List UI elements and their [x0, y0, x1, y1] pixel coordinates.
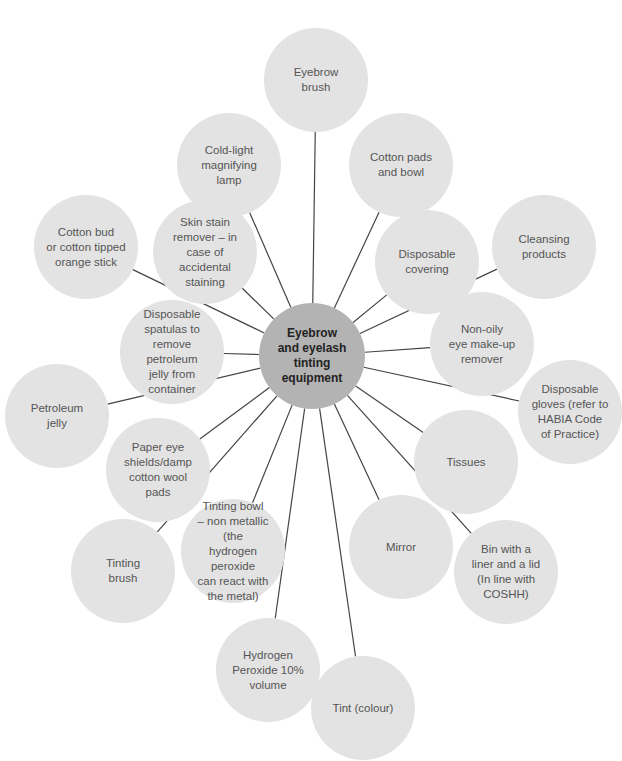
connector-skin-stain-remover: [242, 288, 274, 319]
connector-disposable-spatulas: [224, 353, 259, 354]
node-label: Tissues: [446, 455, 485, 470]
node-label: Cotton pads and bowl: [370, 150, 432, 180]
node-tint-colour: Tint (colour): [311, 656, 415, 760]
connector-tissues: [356, 386, 424, 432]
connector-non-oily-remover: [365, 348, 430, 353]
node-label: Mirror: [386, 540, 416, 555]
node-eyebrow-brush: Eyebrow brush: [264, 28, 368, 132]
node-label: Non-oily eye make-up remover: [449, 322, 515, 367]
node-label: Paper eye shields/damp cotton wool pads: [124, 440, 192, 500]
node-label: Disposable gloves (refer to HABIA Code o…: [532, 382, 609, 442]
node-label: Cleansing products: [518, 232, 569, 262]
node-label: Cold-light magnifying lamp: [201, 143, 257, 188]
node-hydrogen-peroxide: Hydrogen Peroxide 10% volume: [216, 618, 320, 722]
node-cotton-bud: Cotton bud or cotton tipped orange stick: [34, 195, 138, 299]
node-label: Disposable spatulas to remove petroleum …: [126, 307, 218, 397]
hub-node: Eyebrow and eyelash tinting equipment: [259, 303, 365, 409]
node-mirror: Mirror: [349, 495, 453, 599]
node-disposable-spatulas: Disposable spatulas to remove petroleum …: [120, 300, 224, 404]
node-label: Cotton bud or cotton tipped orange stick: [46, 225, 125, 270]
node-label: Tinting brush: [106, 556, 140, 586]
node-cleansing-products: Cleansing products: [492, 195, 596, 299]
node-bin: Bin with a liner and a lid (In line with…: [454, 520, 558, 624]
node-tissues: Tissues: [414, 410, 518, 514]
node-label: Hydrogen Peroxide 10% volume: [232, 648, 304, 693]
node-label: Petroleum jelly: [31, 401, 83, 431]
connector-cotton-pads-bowl: [334, 212, 379, 308]
connector-tinting-bowl: [253, 405, 293, 503]
node-label: Disposable covering: [399, 247, 456, 277]
connector-disposable-covering: [353, 295, 387, 323]
node-non-oily-remover: Non-oily eye make-up remover: [430, 292, 534, 396]
node-petroleum-jelly: Petroleum jelly: [5, 364, 109, 468]
connector-hydrogen-peroxide: [275, 408, 304, 618]
node-label: Tint (colour): [333, 701, 394, 716]
node-label: Skin stain remover – in case of accident…: [159, 215, 251, 290]
node-disposable-gloves: Disposable gloves (refer to HABIA Code o…: [518, 360, 622, 464]
node-tinting-brush: Tinting brush: [71, 519, 175, 623]
connector-eyebrow-brush: [313, 132, 315, 303]
node-cotton-pads-bowl: Cotton pads and bowl: [349, 113, 453, 217]
node-label: Tinting bowl – non metallic (the hydroge…: [187, 499, 279, 604]
node-tinting-bowl: Tinting bowl – non metallic (the hydroge…: [181, 499, 285, 603]
connector-mirror: [334, 404, 379, 500]
hub-label: Eyebrow and eyelash tinting equipment: [278, 326, 347, 386]
node-label: Eyebrow brush: [294, 65, 339, 95]
node-skin-stain-remover: Skin stain remover – in case of accident…: [153, 200, 257, 304]
node-label: Bin with a liner and a lid (In line with…: [472, 542, 540, 602]
